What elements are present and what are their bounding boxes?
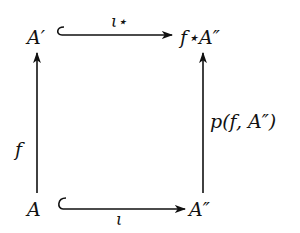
bottom-inclusion-arrow	[59, 198, 185, 209]
node-top-right: f⋆A″	[180, 28, 220, 47]
label-bottom-arrow: ι	[116, 212, 122, 228]
node-bottom-left: A	[27, 200, 41, 219]
node-bottom-right: A″	[189, 200, 210, 219]
label-left-arrow: f	[15, 140, 22, 159]
node-top-left: A′	[27, 28, 45, 47]
label-top-arrow: ι⋆	[111, 14, 127, 30]
label-right-arrow: p(f, A″)	[210, 112, 276, 131]
